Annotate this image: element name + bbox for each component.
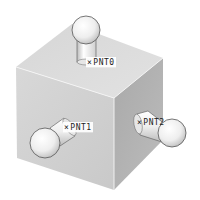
point-name: PNT2 <box>143 117 164 127</box>
cube-model <box>0 0 200 200</box>
cad-viewport[interactable]: ×PNT0 ×PNT1 ×PNT2 <box>0 0 200 200</box>
point-name: PNT0 <box>93 57 114 67</box>
datum-point-x-icon: × <box>87 57 92 67</box>
datum-point-pnt1-label[interactable]: ×PNT1 <box>63 122 93 132</box>
datum-point-pnt0-label[interactable]: ×PNT0 <box>86 57 116 67</box>
datum-point-x-icon: × <box>64 122 69 132</box>
datum-point-pnt2-label[interactable]: ×PNT2 <box>136 117 166 127</box>
datum-point-x-icon: × <box>137 117 142 127</box>
point-name: PNT1 <box>70 122 91 132</box>
